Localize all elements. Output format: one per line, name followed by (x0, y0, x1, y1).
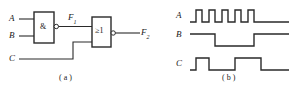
net-label-f1-subscript: 1 (74, 19, 77, 25)
signal-label-c: C (176, 59, 182, 68)
waveform-a (190, 10, 289, 22)
nor-output-bubble-icon (111, 31, 115, 35)
nor-gate-symbol: ≥1 (95, 27, 103, 35)
nand-gate-symbol: & (40, 23, 46, 31)
panel-a-caption: ( a ) (59, 74, 72, 82)
nand-output-bubble-icon (54, 24, 58, 28)
net-label-f1: F1 (68, 13, 77, 24)
figure-svg (0, 0, 304, 88)
timing-panel-b (190, 10, 289, 70)
circuit-panel-a (19, 12, 140, 59)
net-label-f1-base: F (68, 12, 74, 22)
input-label-b: B (9, 31, 15, 40)
net-label-f2: F2 (141, 28, 150, 39)
net-label-f2-subscript: 2 (147, 34, 150, 40)
signal-label-a: A (176, 11, 182, 20)
waveform-b (190, 34, 289, 46)
panel-b-caption: ( b ) (222, 74, 235, 82)
input-label-a: A (9, 14, 15, 23)
wire-input-c (19, 42, 92, 59)
figure-container: A B C & ≥1 F1 F2 ( a ) A B C ( b ) (0, 0, 304, 88)
input-label-c: C (9, 54, 15, 63)
net-label-f2-base: F (141, 27, 147, 37)
waveform-c (190, 58, 289, 70)
signal-label-b: B (176, 30, 182, 39)
